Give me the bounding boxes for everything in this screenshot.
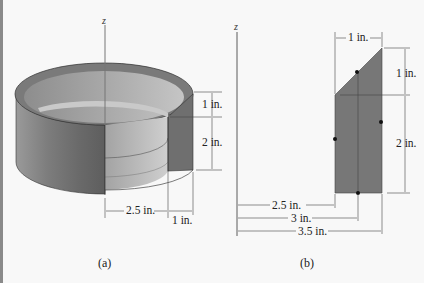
z-axis-label-b: z (233, 21, 238, 32)
caption-a: (a) (98, 256, 111, 270)
diagram-canvas: z 1 in. 2 in. 2.5 in. 1 in. (a) z (0, 0, 424, 283)
centroid-point (355, 70, 359, 74)
caption-b: (b) (300, 256, 314, 270)
dim-b-r1: 2.5 in. (272, 199, 301, 211)
centroid-point (379, 120, 383, 124)
dim-a-thickness: 1 in. (172, 214, 193, 226)
figure-b-z-axis: z (233, 21, 238, 236)
dim-b-bottom-height: 2 in. (396, 137, 417, 149)
dim-b-top-width: 1 in. (348, 31, 369, 43)
dim-b-top-height: 1 in. (396, 67, 417, 79)
dim-a-top-height: 1 in. (202, 98, 223, 110)
cross-section (333, 48, 383, 195)
dim-a-bottom-height: 2 in. (202, 136, 223, 148)
dim-b-r2: 3 in. (291, 212, 312, 224)
centroid-point (333, 137, 337, 141)
dim-a-inner-radius: 2.5 in. (126, 204, 155, 216)
dim-b-r3: 3.5 in. (298, 225, 327, 237)
figure-a-shell (15, 63, 193, 195)
z-axis-label: z (101, 15, 106, 26)
